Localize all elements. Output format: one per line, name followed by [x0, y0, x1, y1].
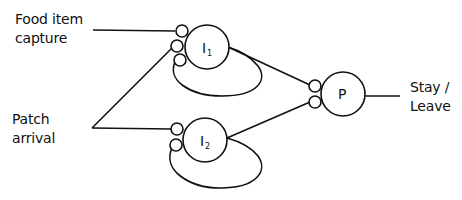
node-i1: I 1 — [171, 25, 229, 69]
food-capture-wire — [93, 30, 175, 31]
p-synapse-i2 — [309, 96, 321, 108]
i2-synapse-patch — [171, 123, 183, 135]
i2-to-p-wire — [227, 102, 310, 138]
food-capture-line1: Food item — [15, 10, 83, 29]
i2-label: I — [200, 133, 204, 149]
i2-synapse-loop — [170, 139, 182, 151]
food-capture-line2: capture — [15, 29, 83, 48]
i1-subscript: 1 — [207, 49, 212, 58]
stay-leave-line1: Stay / — [410, 78, 451, 97]
node-p: P — [309, 72, 365, 116]
patch-arrival-line2: arrival — [12, 129, 55, 148]
i1-synapse-loop — [174, 54, 186, 66]
p-label: P — [338, 86, 346, 102]
i1-to-p-wire — [228, 47, 310, 85]
p-synapse-i1 — [309, 80, 321, 92]
node-i2: I 2 — [170, 118, 227, 162]
i1-label: I — [202, 40, 206, 56]
stay-leave-label: Stay / Leave — [410, 78, 451, 116]
patch-to-i2-wire — [92, 128, 172, 129]
patch-to-i1-wire — [92, 48, 172, 128]
stay-leave-line2: Leave — [410, 97, 451, 116]
i2-subscript: 2 — [205, 142, 210, 151]
i1-synapse-patch — [171, 40, 183, 52]
i1-synapse-food — [176, 25, 188, 37]
patch-arrival-line1: Patch — [12, 110, 55, 129]
patch-arrival-label: Patch arrival — [12, 110, 55, 148]
food-capture-label: Food item capture — [15, 10, 83, 48]
